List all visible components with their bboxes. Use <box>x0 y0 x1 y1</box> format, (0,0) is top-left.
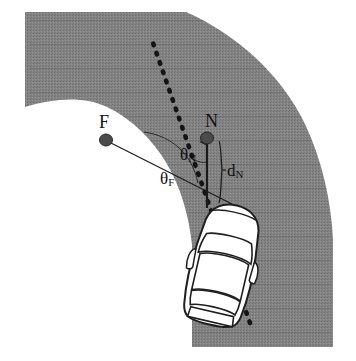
label-theta-near: θN <box>180 146 196 164</box>
label-theta-far: θF <box>160 170 174 188</box>
figure-canvas: F N θN θF dN <box>0 0 356 361</box>
theta-near-sub: N <box>188 152 196 164</box>
label-near-node: N <box>205 112 218 130</box>
near-node-dot <box>201 132 214 144</box>
theta-far-sub: F <box>168 176 174 188</box>
theta-far-base: θ <box>160 169 168 188</box>
distance-near-base: d <box>227 161 236 180</box>
label-far-node: F <box>99 113 109 131</box>
road-band-group <box>0 0 356 361</box>
far-node-dot <box>100 134 113 146</box>
label-distance-near: dN <box>227 162 243 180</box>
diagram-svg <box>0 0 356 361</box>
distance-near-sub: N <box>236 168 244 180</box>
curved-road-band <box>25 12 333 347</box>
theta-near-base: θ <box>180 145 188 164</box>
